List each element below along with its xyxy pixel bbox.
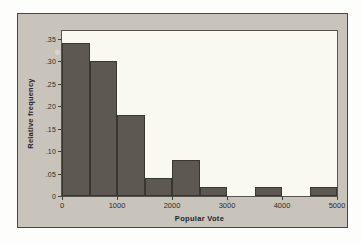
- y-axis-tick: [58, 174, 62, 175]
- x-axis-tick: [282, 196, 283, 200]
- y-axis-tick: [58, 129, 62, 130]
- y-axis-tick-label: .05: [46, 170, 56, 177]
- y-axis-title-text: Relative frequency: [26, 78, 35, 148]
- x-axis-title: Popular Vote: [61, 214, 338, 223]
- y-axis-title: Relative frequency: [24, 30, 36, 197]
- x-axis-tick-label: 2000: [164, 201, 181, 210]
- plot-frame: 0.05.10.15.20.25.30.35 01000200030004000…: [61, 30, 338, 197]
- histogram-bar: [117, 115, 145, 196]
- plot-area: 0.05.10.15.20.25.30.35 01000200030004000…: [62, 31, 337, 196]
- y-axis-tick-label: .15: [46, 125, 56, 132]
- bars-layer: [62, 31, 337, 196]
- x-axis-tick: [337, 196, 338, 200]
- y-axis-tick-label: .20: [46, 103, 56, 110]
- x-axis-tick: [117, 196, 118, 200]
- y-axis-tick-label: .10: [46, 148, 56, 155]
- histogram-bar: [310, 187, 338, 196]
- y-axis-tick: [58, 61, 62, 62]
- figure-panel: Relative frequency 0.05.10.15.20.25.30.3…: [17, 13, 348, 228]
- histogram-bar: [62, 43, 90, 196]
- x-axis-tick: [227, 196, 228, 200]
- histogram-bar: [200, 187, 228, 196]
- x-axis-tick: [62, 196, 63, 200]
- histogram-screenshot: Relative frequency 0.05.10.15.20.25.30.3…: [0, 0, 362, 243]
- y-axis-tick-label: .25: [46, 80, 56, 87]
- x-axis-tick-label: 0: [60, 201, 64, 210]
- x-axis-tick-label: 5000: [329, 201, 346, 210]
- y-axis-tick: [58, 39, 62, 40]
- y-axis-tick: [58, 151, 62, 152]
- x-axis-tick-label: 3000: [219, 201, 236, 210]
- x-axis-tick-label: 1000: [109, 201, 126, 210]
- y-axis-tick: [58, 84, 62, 85]
- x-axis-tick-label: 4000: [274, 201, 291, 210]
- histogram-bar: [145, 178, 173, 196]
- y-axis-tick-label: .35: [46, 35, 56, 42]
- x-axis-tick: [172, 196, 173, 200]
- histogram-bar: [90, 61, 118, 196]
- y-axis-tick: [58, 106, 62, 107]
- y-axis-tick-label: 0: [52, 193, 56, 200]
- histogram-bar: [255, 187, 283, 196]
- histogram-bar: [172, 160, 200, 196]
- y-axis-tick-label: .30: [46, 58, 56, 65]
